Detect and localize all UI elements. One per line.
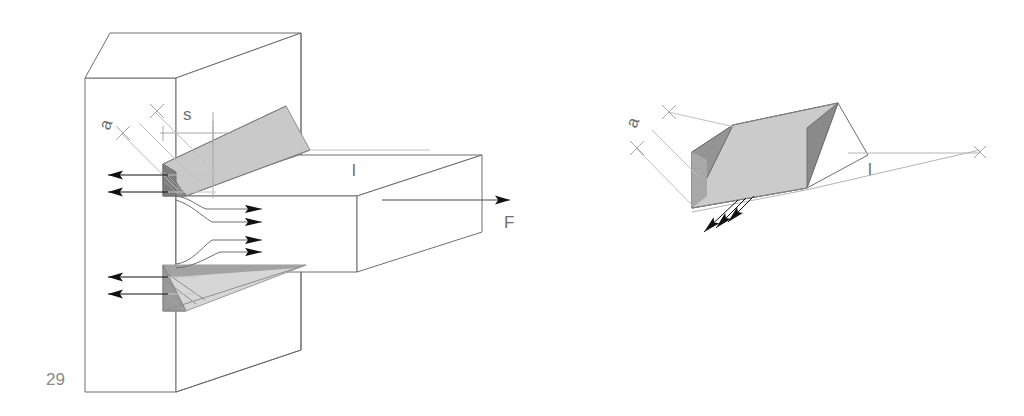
dimension-a-right-extension-1: [636, 148, 692, 205]
force-label-F: F: [504, 213, 514, 232]
dimension-a-right-extension-2: [668, 112, 735, 127]
dimension-l-right-leader-upper: [806, 150, 980, 190]
figure-root: a s l F: [0, 0, 1024, 416]
dimension-l-left-label: l: [352, 161, 356, 180]
weld-diagram-canvas: a s l F: [0, 0, 1024, 416]
right-view-group: a l: [622, 103, 986, 232]
left-view-group: a s l F: [46, 33, 514, 392]
page-number: 29: [46, 370, 65, 389]
dimension-l-right-label: l: [868, 160, 872, 179]
dimension-a-right-label: a: [622, 114, 643, 130]
dimension-s-label: s: [183, 105, 192, 124]
weld-prism-body: [692, 103, 838, 208]
